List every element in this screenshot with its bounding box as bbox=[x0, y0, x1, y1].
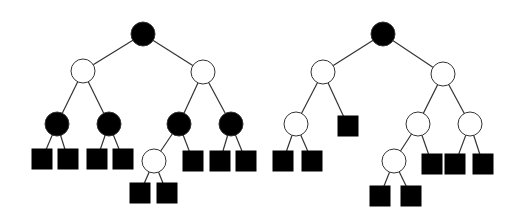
white-node bbox=[311, 60, 335, 84]
white-node bbox=[191, 60, 215, 84]
white-node bbox=[406, 112, 430, 136]
white-node bbox=[458, 112, 482, 136]
leaf-square bbox=[422, 154, 443, 175]
black-node bbox=[371, 22, 395, 46]
left-tree bbox=[32, 22, 257, 204]
tree-diagram bbox=[0, 0, 518, 219]
leaf-square bbox=[445, 154, 466, 175]
leaf-square bbox=[338, 116, 359, 137]
black-node bbox=[131, 22, 155, 46]
leaf-square bbox=[210, 151, 231, 172]
leaf-square bbox=[370, 186, 391, 207]
right-tree bbox=[273, 22, 494, 207]
leaf-square bbox=[87, 149, 108, 170]
white-node bbox=[284, 112, 308, 136]
leaf-square bbox=[113, 149, 134, 170]
black-node bbox=[97, 112, 121, 136]
leaf-square bbox=[236, 151, 257, 172]
tree-nodes bbox=[32, 22, 494, 207]
white-node bbox=[431, 62, 455, 86]
leaf-square bbox=[58, 149, 79, 170]
leaf-square bbox=[302, 151, 323, 172]
leaf-square bbox=[401, 186, 422, 207]
leaf-square bbox=[183, 151, 204, 172]
black-node bbox=[219, 112, 243, 136]
black-node bbox=[167, 112, 191, 136]
leaf-square bbox=[473, 154, 494, 175]
white-node bbox=[142, 149, 166, 173]
leaf-square bbox=[157, 183, 178, 204]
black-node bbox=[45, 112, 69, 136]
white-node bbox=[71, 59, 95, 83]
leaf-square bbox=[273, 151, 294, 172]
leaf-square bbox=[32, 149, 53, 170]
white-node bbox=[382, 149, 406, 173]
leaf-square bbox=[130, 183, 151, 204]
